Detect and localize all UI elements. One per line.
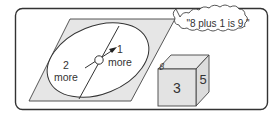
sector-left-word: more (54, 71, 78, 83)
bubble-text: "8 plus 1 is 9." (186, 18, 250, 29)
diagram: 2 more 1 more "8 plus 1 is 9." 3 5 8 (0, 0, 279, 118)
sector-right-word: more (108, 56, 132, 68)
sector-left-number: 2 (63, 59, 69, 71)
cube-front-number: 3 (173, 80, 181, 96)
number-cube: 3 5 8 (158, 55, 209, 106)
spinner-hub (95, 56, 103, 64)
sector-right-number: 1 (117, 43, 123, 55)
cube-right-number: 5 (199, 72, 206, 87)
